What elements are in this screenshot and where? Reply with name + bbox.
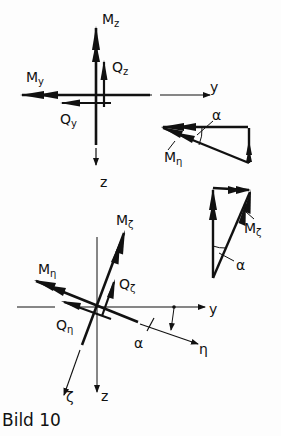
- top-figure: [20, 26, 210, 165]
- label-alpha-eta: α: [212, 108, 221, 122]
- figure-caption: Bild 10: [2, 410, 61, 430]
- label-mzeta-triangle: Mζ: [244, 221, 262, 238]
- label-my: My: [26, 70, 44, 87]
- label-qz: Qz: [112, 60, 128, 77]
- label-qy: Qy: [60, 112, 77, 129]
- label-mzeta: Mζ: [116, 213, 134, 230]
- diagram-drawing: [0, 0, 281, 436]
- label-y-axis-lower: y: [209, 302, 217, 316]
- bottom-figure: [17, 230, 205, 395]
- label-qzeta: Qζ: [119, 277, 135, 294]
- label-zeta-axis: ζ: [66, 390, 74, 404]
- label-mz: Mz: [102, 12, 119, 29]
- label-alpha-zeta: α: [236, 258, 245, 272]
- label-meta: Mη: [38, 262, 56, 279]
- label-z-axis: z: [100, 175, 107, 189]
- label-meta-triangle: Mη: [164, 150, 182, 167]
- label-z-axis-lower: z: [101, 389, 108, 403]
- label-qeta: Qη: [56, 318, 73, 335]
- label-y-axis: y: [210, 80, 218, 94]
- label-alpha-lower: α: [134, 336, 143, 350]
- label-eta-axis: η: [199, 342, 208, 356]
- diagram-canvas: Mz Qz My Qy y z α Mη Mζ α Mζ Qζ Mη Qη y …: [0, 0, 281, 436]
